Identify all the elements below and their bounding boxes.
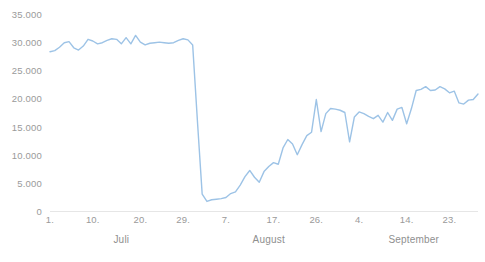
y-tick-label: 25.000 <box>12 65 42 76</box>
x-tick-label: 1. <box>46 214 54 225</box>
line-chart: 35.00030.00025.00020.00015.00010.0005.00… <box>0 0 485 262</box>
x-month-label: September <box>388 234 439 245</box>
plot-area <box>50 14 478 211</box>
x-tick-label: 14. <box>400 214 414 225</box>
y-tick-label: 5.000 <box>17 177 42 188</box>
x-tick-label: 20. <box>133 214 147 225</box>
x-tick-label: 29. <box>176 214 190 225</box>
y-tick-label: 15.000 <box>12 121 42 132</box>
x-month-label: Juli <box>113 234 129 245</box>
y-tick-label: 10.000 <box>12 149 42 160</box>
x-tick-label: 7. <box>222 214 230 225</box>
series-line-chart <box>50 14 478 211</box>
x-axis-day-ticks: 1.10.20.29.7.17.26.4.14.23. <box>0 214 485 230</box>
x-axis-line <box>50 211 478 212</box>
x-axis-month-labels: JuliAugustSeptember <box>0 234 485 252</box>
y-tick-label: 35.000 <box>12 9 42 20</box>
y-tick-label: 30.000 <box>12 37 42 48</box>
data-series-line <box>50 35 478 201</box>
x-tick-label: 23. <box>443 214 457 225</box>
x-tick-label: 10. <box>86 214 100 225</box>
x-tick-label: 4. <box>355 214 363 225</box>
x-month-label: August <box>253 234 285 245</box>
x-tick-label: 17. <box>267 214 281 225</box>
x-tick-label: 26. <box>309 214 323 225</box>
y-tick-label: 20.000 <box>12 93 42 104</box>
